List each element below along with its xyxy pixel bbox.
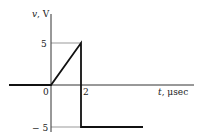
x-axis-label: t, μsec: [158, 87, 188, 97]
x-tick-label-2: 2: [83, 87, 89, 97]
y-axis-label: v, V: [32, 9, 50, 19]
y-tick-label-5: 5: [41, 39, 47, 49]
y-tick-label-neg5: − 5: [32, 123, 48, 133]
x-tick-label-0: 0: [43, 87, 49, 97]
waveform-chart: v, V 5 − 5 0 2 t, μsec: [0, 0, 205, 139]
